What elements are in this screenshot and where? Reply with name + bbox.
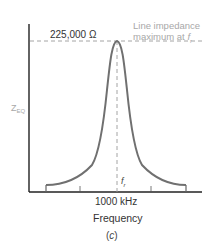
peak-value-label: 225,000 Ω xyxy=(50,30,96,40)
resonance-label: fr xyxy=(121,177,126,188)
annotation-line-2: maximum at fr xyxy=(133,31,200,47)
y-axis-label: ZEQ xyxy=(11,104,25,114)
x-tick-label: 1000 kHz xyxy=(95,197,137,207)
figure-caption: (c) xyxy=(106,231,118,241)
peak-annotation: Line impedance maximum at fr xyxy=(133,20,200,47)
x-axis-label: Frequency xyxy=(93,213,143,224)
impedance-curve xyxy=(46,41,186,185)
annotation-line-1: Line impedance xyxy=(133,20,200,31)
